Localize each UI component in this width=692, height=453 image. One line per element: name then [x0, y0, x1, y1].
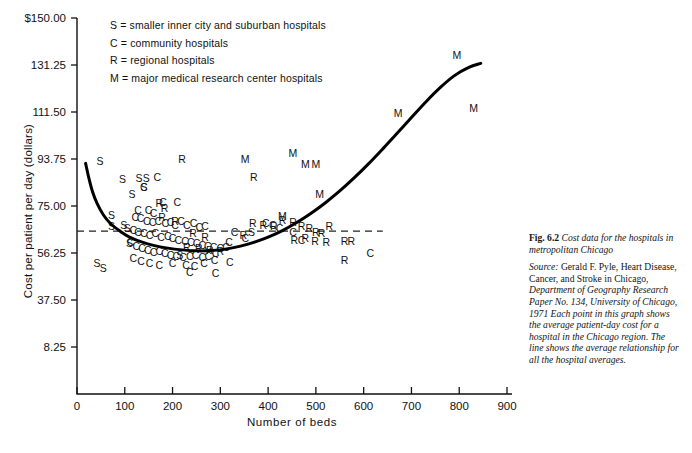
x-axis-tick-label: 600 [354, 400, 373, 412]
data-point-r: R [347, 235, 355, 247]
data-point-c: C [212, 267, 220, 279]
data-point-r: R [302, 232, 310, 244]
data-point-c: C [140, 181, 148, 193]
data-point-r: R [291, 234, 299, 246]
data-point-r: R [260, 219, 268, 231]
data-point-r: R [311, 235, 319, 247]
data-point-c: C [153, 171, 161, 183]
figure-container: $150.00131.25111.5093.7575.0056.2537.508… [0, 0, 692, 453]
data-point-c: C [137, 255, 145, 267]
legend-entry-m: M = major medical research center hospit… [110, 70, 326, 88]
x-axis-tick-label: 700 [402, 400, 421, 412]
data-point-c: C [201, 220, 209, 232]
data-point-c: C [169, 257, 177, 269]
data-point-r: R [249, 217, 257, 229]
legend-entry-c: C = community hospitals [110, 35, 326, 53]
x-axis-tick-label: 800 [450, 400, 469, 412]
x-axis-tick-label: 100 [115, 400, 134, 412]
data-point-s: S [119, 173, 126, 185]
data-point-m: M [452, 49, 461, 61]
data-point-m: M [241, 153, 250, 165]
data-point-c: C [200, 257, 208, 269]
data-point-c: C [186, 266, 194, 278]
legend: S = smaller inner city and suburban hosp… [110, 17, 326, 87]
data-point-r: R [239, 229, 247, 241]
data-point-r: R [195, 242, 203, 254]
figure-caption: Fig. 6.2 Cost data for the hospitals in … [529, 232, 681, 366]
data-point-c: C [231, 226, 239, 238]
caption-source-label: Source: [529, 261, 558, 272]
caption-source-note: Each point in this graph shows the avera… [529, 308, 679, 365]
x-axis-tick-label: 300 [211, 400, 230, 412]
data-point-r: R [158, 211, 166, 223]
data-point-m: M [278, 210, 287, 222]
x-axis-tick-label: 0 [74, 400, 80, 412]
data-point-s: S [100, 262, 107, 274]
data-point-c: C [155, 259, 163, 271]
chart-plot-panel: $150.00131.25111.5093.7575.0056.2537.508… [0, 0, 520, 453]
data-point-r: R [250, 171, 258, 183]
data-point-m: M [469, 102, 478, 114]
data-point-r: R [178, 153, 186, 165]
legend-entry-s: S = smaller inner city and suburban hosp… [110, 17, 326, 35]
data-point-r: R [270, 220, 278, 232]
data-point-r: R [171, 215, 179, 227]
caption-source-author: Gerald F. Pyle, [561, 261, 618, 272]
caption-title-line: Fig. 6.2 Cost data for the hospitals in … [529, 232, 681, 255]
data-point-c: C [226, 256, 234, 268]
data-point-s: S [108, 209, 115, 221]
data-point-c: C [367, 247, 375, 259]
caption-figure-number: Fig. 6.2 [529, 232, 559, 243]
data-point-m: M [394, 107, 403, 119]
data-point-m: M [289, 147, 298, 159]
y-axis-tick-label: 56.25 [37, 247, 66, 259]
data-point-m: M [301, 158, 310, 170]
y-axis-title: Cost per patient per day (dollars) [22, 101, 34, 321]
y-axis-tick-label: 93.75 [37, 153, 66, 165]
x-axis-tick-label: 500 [306, 400, 325, 412]
data-point-r: R [201, 231, 209, 243]
legend-entry-r: R = regional hospitals [110, 52, 326, 70]
data-point-m: M [315, 188, 324, 200]
data-point-r: R [189, 227, 197, 239]
data-point-c: C [146, 257, 154, 269]
y-axis-tick-label: $150.00 [24, 12, 66, 24]
y-axis-tick-label: 131.25 [31, 59, 66, 71]
y-axis-tick-label: 111.50 [33, 106, 66, 118]
y-axis-tick-label: 75.00 [37, 200, 66, 212]
caption-source-text: Source: Gerald F. Pyle, Heart Disease, C… [529, 261, 681, 365]
data-point-s: S [96, 155, 103, 167]
x-axis-title: Number of beds [77, 416, 507, 428]
y-axis-tick-label: 37.50 [37, 294, 66, 306]
data-point-m: M [312, 158, 321, 170]
data-point-r: R [323, 236, 331, 248]
data-point-c: C [174, 196, 182, 208]
x-axis-tick-label: 900 [497, 400, 516, 412]
x-axis-tick-label: 400 [259, 400, 278, 412]
y-axis-tick-label: 8.25 [44, 341, 66, 353]
data-point-s: S [128, 188, 135, 200]
x-axis-tick-label: 200 [163, 400, 182, 412]
data-point-r: R [341, 254, 349, 266]
data-point-r: R [325, 220, 333, 232]
